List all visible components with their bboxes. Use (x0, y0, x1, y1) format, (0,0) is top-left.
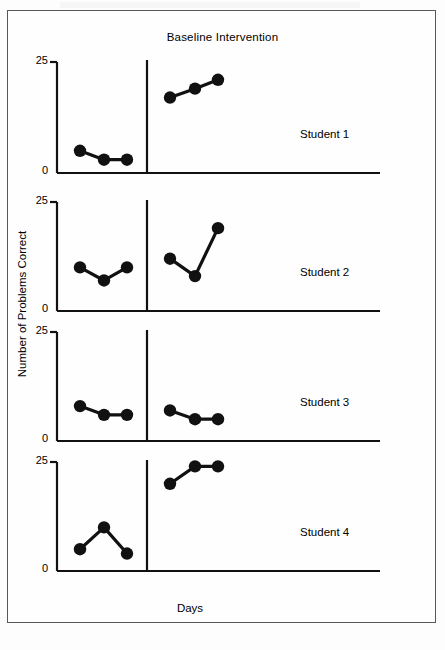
data-point-intervention (189, 460, 201, 472)
subject-label-student-4: Student 4 (300, 526, 349, 538)
data-point-baseline (121, 547, 133, 559)
data-point-intervention (212, 460, 224, 472)
data-point-intervention (164, 478, 176, 490)
y-tick-label-bottom: 0 (22, 562, 48, 574)
y-tick-label-top: 25 (22, 454, 48, 466)
figure-canvas: Baseline Intervention Number of Problems… (0, 0, 445, 650)
panel-plot-area (0, 0, 445, 650)
data-point-baseline (74, 543, 86, 555)
data-point-baseline (98, 521, 110, 533)
